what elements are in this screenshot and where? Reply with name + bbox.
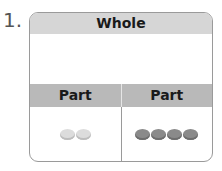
counter-icon [60,129,75,140]
part-part-whole-mat: Whole Part Part [29,12,213,162]
counter-icon [135,129,150,140]
part-header-right: Part [122,84,213,107]
counter-icon [183,129,198,140]
parts-header-row: Part Part [30,84,212,107]
counter-icon [167,129,182,140]
whole-header: Whole [30,13,212,34]
counter-icon [76,129,91,140]
problem-number: 1. [3,8,22,32]
part-cell-left [30,107,122,161]
parts-body-row [30,107,212,161]
counter-icon [151,129,166,140]
part-header-left: Part [30,84,122,107]
part-cell-right [122,107,213,161]
